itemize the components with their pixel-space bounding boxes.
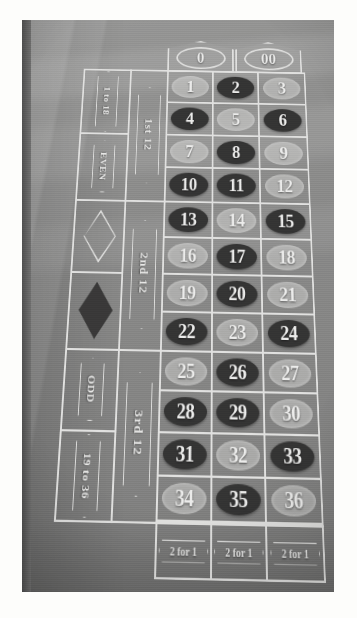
cartouche-frame: 2 for 1 [270, 541, 320, 565]
number-pill: 9 [264, 141, 303, 165]
number-grid: 1234567891011121314151617181920212223242… [155, 70, 323, 528]
second-dozen-label: 2nd 12 [136, 253, 151, 295]
bet-cell-number[interactable]: 34 [157, 477, 212, 523]
number-pill: 36 [271, 485, 317, 517]
number-pill: 20 [217, 280, 258, 307]
bet-cell-first-dozen[interactable]: 1st 12 [126, 71, 169, 203]
bet-cell-column[interactable]: 2 for 1 [212, 525, 268, 579]
bet-cell-column[interactable]: 2 for 1 [267, 526, 324, 580]
cartouche-frame: 2 for 1 [158, 539, 208, 563]
perspective-stage: 0 00 1 to 18 [22, 20, 334, 592]
number-pill: 14 [217, 208, 257, 233]
number-pill: 33 [270, 441, 315, 472]
bet-cell-number[interactable]: 22 [162, 312, 213, 352]
number-pill: 28 [164, 397, 207, 427]
zero-row: 0 00 [167, 40, 302, 74]
bet-cell-number[interactable]: 12 [261, 170, 310, 205]
bet-cell-number[interactable]: 10 [165, 168, 213, 203]
column-bets-row: 2 for 12 for 12 for 1 [154, 522, 326, 583]
bet-cell-number[interactable]: 3 [259, 73, 305, 105]
number-pill: 15 [266, 209, 306, 234]
bet-cell-red[interactable] [72, 201, 126, 274]
bet-cell-number[interactable]: 31 [159, 434, 213, 478]
low-bet-label: 1 to 18 [101, 87, 112, 115]
bet-cell-number[interactable]: 32 [212, 435, 266, 479]
bet-cell-black[interactable] [67, 273, 123, 351]
number-pill: 24 [268, 319, 310, 347]
bet-cell-number[interactable]: 25 [161, 351, 213, 392]
number-pill: 17 [217, 244, 257, 270]
bet-cell-number[interactable]: 20 [213, 276, 263, 315]
number-pill: 5 [217, 108, 255, 131]
column-bet-label: 2 for 1 [281, 546, 309, 560]
bet-cell-zero[interactable]: 0 [167, 40, 234, 72]
number-pill: 34 [162, 483, 207, 515]
number-pill: 6 [263, 109, 301, 132]
bet-cell-number[interactable]: 14 [213, 204, 262, 240]
bet-cell-number[interactable]: 33 [265, 436, 320, 480]
table-layout: 0 00 1 to 18 [36, 37, 322, 583]
odd-bet-label: ODD [85, 376, 98, 404]
number-pill: 35 [216, 484, 261, 516]
column-bet-label: 2 for 1 [225, 545, 252, 559]
bet-cell-number[interactable]: 17 [213, 239, 262, 277]
bet-cell-double-zero[interactable]: 00 [235, 42, 302, 74]
number-pill: 19 [166, 279, 207, 306]
bet-cell-even[interactable]: EVEN [77, 134, 129, 202]
bet-cell-number[interactable]: 30 [265, 394, 319, 437]
number-pill: 16 [167, 243, 208, 269]
number-pill: 2 [217, 76, 254, 98]
bet-cell-odd[interactable]: ODD [62, 350, 120, 433]
bet-cell-number[interactable]: 4 [167, 103, 213, 136]
bet-cell-low[interactable]: 1 to 18 [81, 70, 132, 134]
third-dozen-label: 3rd 12 [130, 410, 147, 456]
bet-cell-number[interactable]: 36 [266, 479, 322, 525]
number-pill: 21 [267, 281, 309, 308]
cartouche-frame: 1st 12 [135, 87, 161, 183]
number-pill: 7 [170, 139, 209, 163]
photograph-frame: 0 00 1 to 18 [0, 0, 357, 618]
bet-cell-number[interactable]: 16 [164, 238, 214, 275]
bet-cell-third-dozen[interactable]: 3rd 12 [113, 351, 162, 522]
bet-cell-column[interactable]: 2 for 1 [156, 524, 212, 578]
number-pill: 26 [216, 358, 259, 387]
bet-cell-number[interactable]: 19 [163, 275, 213, 314]
bet-cell-number[interactable]: 11 [213, 169, 261, 204]
bet-cell-number[interactable]: 2 [214, 72, 260, 104]
even-bet-label: EVEN [98, 152, 110, 180]
cartouche-frame: EVEN [91, 141, 116, 193]
bet-cell-number[interactable]: 21 [262, 277, 313, 316]
bet-cell-number[interactable]: 8 [213, 136, 260, 170]
bet-cell-number[interactable]: 9 [260, 137, 308, 171]
cartouche-frame: 2nd 12 [129, 220, 157, 329]
bet-cell-number[interactable]: 26 [213, 352, 265, 393]
number-pill: 27 [269, 359, 312, 388]
bet-cell-number[interactable]: 29 [213, 393, 266, 436]
bet-cell-number[interactable]: 15 [261, 204, 310, 240]
bet-cell-number[interactable]: 18 [262, 240, 312, 278]
bet-cell-number[interactable]: 13 [165, 203, 214, 239]
number-pill: 8 [217, 140, 256, 164]
number-pill: 25 [165, 357, 208, 386]
bet-cell-number[interactable]: 35 [212, 478, 267, 524]
bet-cell-number[interactable]: 5 [214, 104, 260, 137]
cartouche-frame: 2 for 1 [214, 540, 264, 564]
bet-cell-number[interactable]: 6 [259, 105, 306, 138]
bet-cell-number[interactable]: 7 [166, 135, 213, 169]
red-diamond-icon [82, 209, 118, 263]
bet-cell-number[interactable]: 23 [213, 313, 264, 353]
bet-cell-number[interactable]: 1 [168, 72, 214, 104]
bet-cell-number[interactable]: 27 [264, 353, 317, 394]
bet-cell-second-dozen[interactable]: 2nd 12 [120, 202, 166, 351]
bet-cell-number[interactable]: 24 [263, 314, 315, 354]
number-pill: 23 [216, 318, 258, 346]
number-pill: 31 [163, 439, 207, 470]
bet-cell-number[interactable]: 28 [160, 392, 213, 435]
number-pill: 3 [263, 77, 301, 99]
number-pill: 29 [216, 398, 259, 428]
cartouche-frame: ODD [77, 358, 104, 422]
bet-cell-high[interactable]: 19 to 36 [56, 432, 116, 521]
cartouche-frame: 3rd 12 [122, 372, 153, 497]
first-dozen-label: 1st 12 [141, 118, 155, 150]
number-pill: 1 [171, 76, 209, 98]
